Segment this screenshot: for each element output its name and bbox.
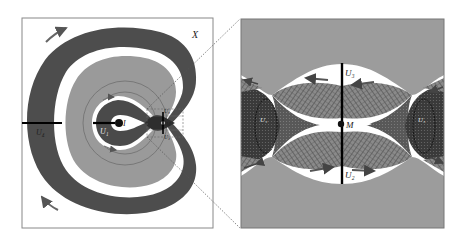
- label-u3: U₃: [345, 68, 355, 78]
- label-u5: U₅: [418, 116, 426, 124]
- label-u2: U₂: [345, 170, 355, 180]
- label-u2: U₂: [164, 134, 170, 140]
- space-label-x: X: [191, 29, 199, 40]
- right-panel: U₃ M U₂ U₄ U₅: [241, 19, 444, 228]
- label-i: I: [122, 119, 126, 128]
- label-m: M: [345, 120, 354, 130]
- flow-arrow-lower-right: [352, 170, 374, 171]
- label-u4: U₄: [36, 128, 45, 137]
- left-panel: X U₄ U₁ I U₃ M U₂: [22, 18, 213, 228]
- fixed-point-i: [115, 119, 123, 127]
- label-u4: U₄: [260, 116, 268, 124]
- label-u1: U₁: [100, 127, 109, 136]
- label-u3: U₃: [164, 108, 170, 114]
- figure: X U₄ U₁ I U₃ M U₂: [0, 0, 468, 244]
- saddle-point-m: [338, 121, 344, 127]
- label-m: M: [165, 121, 171, 127]
